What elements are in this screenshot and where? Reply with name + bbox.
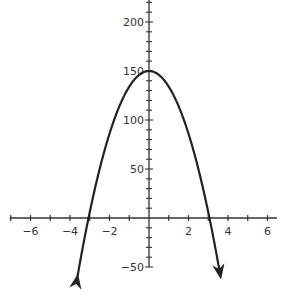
x-tick-label: 2 (185, 225, 192, 238)
y-axis (145, 0, 153, 267)
y-tick-labels: 20015010050−50 (121, 16, 144, 274)
x-tick-label: −4 (62, 225, 78, 238)
y-tick-label: 50 (130, 163, 144, 176)
y-tick-label: 200 (123, 16, 144, 29)
y-tick-label: 150 (123, 65, 144, 78)
x-tick-label: −6 (22, 225, 38, 238)
x-tick-label: 6 (264, 225, 271, 238)
x-axis (10, 215, 277, 221)
x-tick-label: −2 (101, 225, 117, 238)
y-tick-label: −50 (121, 261, 144, 274)
parabola-chart: −6−4−2246 20015010050−50 (0, 0, 284, 303)
y-tick-label: 100 (123, 114, 144, 127)
x-tick-label: 4 (225, 225, 232, 238)
x-tick-labels: −6−4−2246 (22, 225, 271, 238)
